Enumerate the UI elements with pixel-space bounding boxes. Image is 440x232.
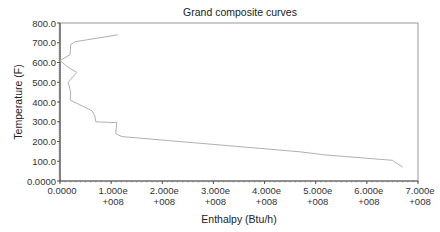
grand-composite-chart: Grand composite curves 0.0000100.0200.03… [0, 0, 440, 232]
x-tick-label-exponent: +008 [358, 196, 379, 207]
x-tick-label-exponent: +008 [205, 196, 226, 207]
x-tick-label-exponent: +008 [256, 196, 277, 207]
x-tick-label: 7.000e [405, 185, 434, 196]
x-axis-label: Enthalpy (Btu/h) [201, 213, 276, 225]
y-tick-label: 600.0 [32, 57, 56, 68]
y-tick-label: 400.0 [32, 97, 56, 108]
y-tick-label: 700.0 [32, 37, 56, 48]
y-tick-label: 800.0 [32, 18, 56, 29]
x-axis: 0.00001.000e+0082.000e+0083.000e+0084.00… [47, 181, 434, 207]
chart-title: Grand composite curves [183, 6, 297, 18]
x-tick-label: 6.000e [354, 185, 383, 196]
x-tick-label-exponent: +008 [409, 196, 430, 207]
x-tick-label-exponent: +008 [307, 196, 328, 207]
plot-border [60, 23, 418, 181]
x-tick-label: 1.000e [99, 185, 128, 196]
x-tick-label-exponent: +008 [154, 196, 175, 207]
x-tick-label: 5.000e [303, 185, 332, 196]
y-tick-label: 200.0 [32, 136, 56, 147]
y-axis: 0.0000100.0200.0300.0400.0500.0600.0700.… [27, 18, 60, 187]
grand-composite-curve-line [60, 35, 403, 167]
y-axis-label: Temperature (F) [12, 64, 24, 139]
x-tick-label: 3.000e [201, 185, 230, 196]
x-tick-label: 0.0000 [47, 185, 76, 196]
x-tick-label: 2.000e [150, 185, 179, 196]
y-tick-label: 500.0 [32, 77, 56, 88]
plot-area [59, 23, 419, 183]
x-tick-label: 4.000e [252, 185, 281, 196]
x-tick-label-exponent: +008 [102, 196, 123, 207]
y-tick-label: 300.0 [32, 116, 56, 127]
y-tick-label: 100.0 [32, 156, 56, 167]
